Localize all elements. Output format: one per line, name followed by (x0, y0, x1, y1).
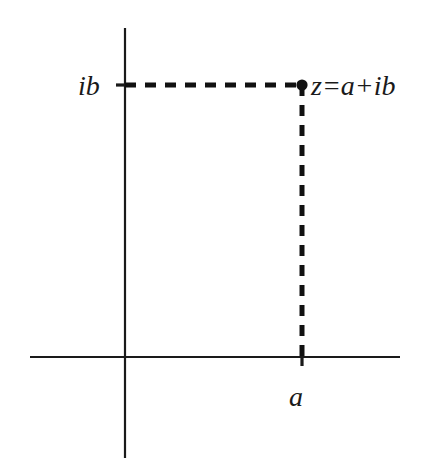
complex-point-z (296, 79, 307, 90)
real-part-label: a (289, 383, 303, 411)
argand-diagram-figure: ib z=a+ib a (0, 0, 421, 475)
point-equation-label: z=a+ib (311, 72, 395, 100)
imaginary-part-label: ib (78, 72, 100, 100)
